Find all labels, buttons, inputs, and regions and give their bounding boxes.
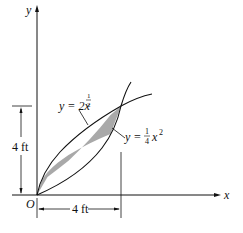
dim-horizontal-label: 4 ft <box>72 202 89 216</box>
curve-sqrt <box>37 94 152 195</box>
lower-coef-num: 1 <box>145 127 149 136</box>
area-diagram: 4 ft 4 ft y x O y = 2x 1 2 y = 1 4 x 2 <box>0 0 243 233</box>
shaded-region <box>37 106 121 195</box>
y-axis-label: y <box>25 3 32 17</box>
lower-leader-line <box>112 128 125 138</box>
dim-arrow-left-icon <box>38 208 44 211</box>
dim-arrow-down-icon <box>20 188 23 194</box>
y-axis-arrow-icon <box>35 5 39 12</box>
lower-curve-label: y = <box>124 130 141 144</box>
x-axis-arrow-icon <box>214 193 221 197</box>
upper-exp-num: 1 <box>87 92 91 100</box>
dim-arrow-right-icon <box>114 208 120 211</box>
origin-label: O <box>26 197 35 211</box>
upper-curve-label: y = 2x <box>58 99 90 113</box>
upper-exp-den: 2 <box>87 101 91 109</box>
lower-coef-den: 4 <box>145 137 149 146</box>
dim-arrow-up-icon <box>20 107 23 113</box>
x-axis-label: x <box>223 188 230 202</box>
dim-vertical-label: 4 ft <box>12 140 29 154</box>
lower-var: x <box>151 130 158 144</box>
lower-exp: 2 <box>159 128 163 137</box>
